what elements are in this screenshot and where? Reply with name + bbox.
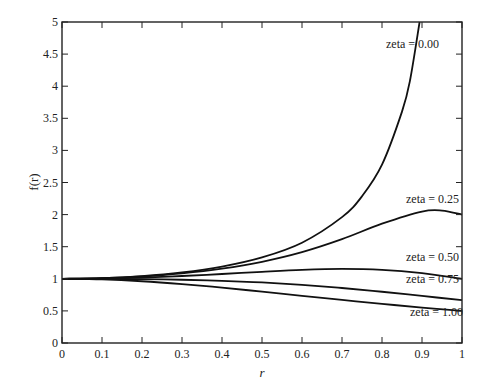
series-line-025 [62, 210, 462, 279]
series-line-075 [62, 279, 462, 300]
x-tick-label: 0.9 [415, 347, 430, 361]
y-tick-label: 0 [52, 336, 58, 350]
y-tick-label: 2.5 [43, 176, 58, 190]
curves-layer [62, 22, 462, 311]
plot-frame [62, 22, 462, 343]
y-tick-label: 0.5 [43, 304, 58, 318]
x-tick-label: 0.2 [135, 347, 150, 361]
line-chart: 00.10.20.30.40.50.60.70.80.91 00.511.522… [0, 0, 484, 384]
curve-label: zeta = 0.00 [386, 37, 439, 51]
series-line-050 [62, 269, 462, 279]
y-tick-label: 2 [52, 208, 58, 222]
curve-label: zeta = 0.25 [406, 192, 459, 206]
x-tick-label: 0.1 [95, 347, 110, 361]
x-tick-label: 0.7 [335, 347, 350, 361]
y-tick-label: 5 [52, 15, 58, 29]
y-tick-label: 4 [52, 79, 58, 93]
x-tick-label: 0.3 [175, 347, 190, 361]
y-axis-ticks: 00.511.522.533.544.55 [43, 15, 462, 350]
series-line-000 [62, 22, 420, 279]
y-tick-label: 4.5 [43, 47, 58, 61]
curve-labels: zeta = 0.00zeta = 0.25zeta = 0.50zeta = … [386, 37, 463, 319]
curve-label: zeta = 1.00 [410, 305, 463, 319]
y-tick-label: 3 [52, 143, 58, 157]
x-axis-ticks: 00.10.20.30.40.50.60.70.80.91 [59, 22, 465, 361]
series-line-100 [62, 279, 462, 311]
x-tick-label: 0.4 [215, 347, 230, 361]
y-tick-label: 1.5 [43, 240, 58, 254]
x-tick-label: 0.5 [255, 347, 270, 361]
x-tick-label: 0.8 [375, 347, 390, 361]
chart-container: 00.10.20.30.40.50.60.70.80.91 00.511.522… [0, 0, 484, 384]
x-tick-label: 0 [59, 347, 65, 361]
curve-label: zeta = 0.75 [406, 272, 459, 286]
y-axis-label: f(r) [26, 173, 41, 190]
y-tick-label: 3.5 [43, 111, 58, 125]
curve-label: zeta = 0.50 [406, 250, 459, 264]
x-tick-label: 1 [459, 347, 465, 361]
y-tick-label: 1 [52, 272, 58, 286]
x-axis-label: r [259, 365, 265, 380]
x-tick-label: 0.6 [295, 347, 310, 361]
